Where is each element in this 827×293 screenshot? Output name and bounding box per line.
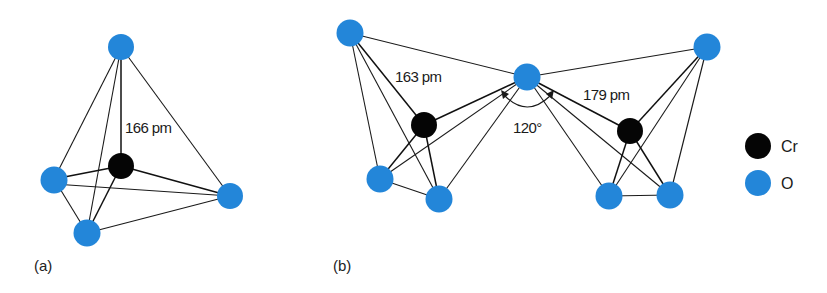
bond-cr-o-right <box>121 166 230 196</box>
oxygen-atom <box>337 20 364 47</box>
oxygen-atom <box>694 34 721 61</box>
panel-b-dichromate: 163 pm 179 pm 120° (b) <box>333 20 721 275</box>
panel-label-a: (a) <box>34 257 52 274</box>
edge-o-top-o-bottom <box>87 47 121 233</box>
bond-length-label-179: 179 pm <box>583 86 630 103</box>
chromium-atom <box>411 112 437 138</box>
oxygen-atom <box>74 220 101 247</box>
edge <box>439 77 527 199</box>
bond-length-label-166: 166 pm <box>125 119 172 136</box>
edge <box>350 33 380 179</box>
edge <box>670 47 707 195</box>
oxygen-atom <box>41 167 68 194</box>
legend-label-cr: Cr <box>781 138 799 155</box>
oxygen-atom <box>426 186 453 213</box>
edge-o-left-o-right <box>54 184 230 196</box>
bridge-angle-label: 120° <box>513 119 542 136</box>
panel-label-b: (b) <box>333 257 351 274</box>
bond-length-label-163: 163 pm <box>395 68 442 85</box>
chromium-oxide-structure-diagram: 166 pm (a) <box>0 0 827 293</box>
panel-a-tetrahedron: 166 pm (a) <box>34 34 243 274</box>
bridging-oxygen-atom <box>514 64 541 91</box>
chromium-atom <box>108 153 134 179</box>
oxygen-atom <box>657 182 684 209</box>
oxygen-atom <box>596 183 623 210</box>
legend: Cr O <box>745 133 799 196</box>
edge <box>527 47 707 77</box>
legend-label-o: O <box>781 175 793 192</box>
legend-oxygen-swatch <box>745 170 771 196</box>
oxygen-atom <box>217 183 243 209</box>
legend-chromium-swatch <box>745 133 771 159</box>
oxygen-atom <box>367 166 394 193</box>
edge-o-bottom-o-right <box>87 196 230 233</box>
bond-cr-o <box>630 47 707 131</box>
angle-arrowhead-left <box>501 90 509 99</box>
chromium-atom <box>617 118 643 144</box>
oxygen-atom <box>108 34 134 60</box>
